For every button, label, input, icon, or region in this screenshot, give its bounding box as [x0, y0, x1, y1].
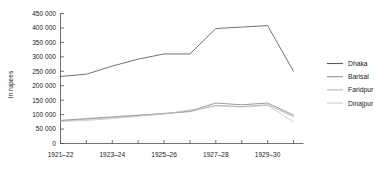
x-tick-label: 1923–24: [99, 151, 125, 158]
x-tick-label: 1927–28: [203, 151, 229, 158]
y-axis-title: In rupees: [7, 70, 15, 98]
series-line-faridpur: [61, 105, 294, 121]
y-tick-label: 350 000: [32, 39, 56, 46]
legend-label-barisal: Barisal: [348, 73, 369, 80]
x-tick-label: 1921–22: [48, 151, 74, 158]
y-tick-label: 50 000: [36, 125, 57, 132]
y-tick-label: 0: [52, 140, 56, 147]
x-tick-label: 1925–26: [151, 151, 177, 158]
y-tick-label: 300 000: [32, 53, 56, 60]
line-chart: 050 000100 000150 000200 000250 000300 0…: [0, 0, 386, 177]
y-tick-label: 200 000: [32, 82, 56, 89]
legend-label-dhaka: Dhaka: [348, 60, 368, 67]
legend-label-dinajpur: Dinajpur: [348, 100, 374, 108]
y-tick-label: 450 000: [32, 10, 56, 17]
y-tick-label: 250 000: [32, 68, 56, 75]
legend-label-faridpur: Faridpur: [348, 86, 374, 94]
series-line-dhaka: [61, 26, 294, 77]
series-line-dinajpur: [61, 105, 294, 121]
y-tick-label: 400 000: [32, 24, 56, 31]
x-tick-label: 1929–30: [255, 151, 281, 158]
y-tick-label: 100 000: [32, 111, 56, 118]
y-tick-label: 150 000: [32, 97, 56, 104]
chart-canvas: 050 000100 000150 000200 000250 000300 0…: [0, 0, 386, 177]
